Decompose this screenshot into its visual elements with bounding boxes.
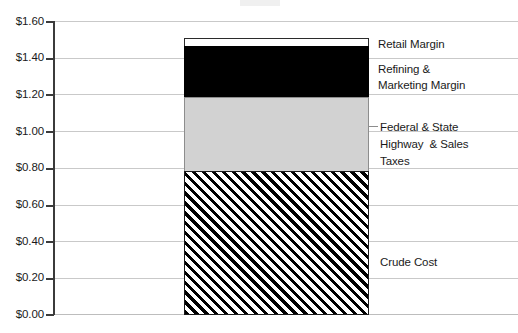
legend-label-taxes-line1: Federal & State [380,120,458,134]
y-tick-label-0-80: $0.80 [0,162,44,174]
stacked-bar-chart: $1.60 $1.40 $1.20 $1.00 $0.80 $0.60 $0.4… [0,0,518,333]
y-tick-mark-0-80 [46,168,54,170]
y-tick-mark-0-20 [46,278,54,280]
y-tick-mark-1-20 [46,94,54,96]
y-tick-label-1-00: $1.00 [0,126,44,138]
y-tick-mark-0-60 [46,205,54,207]
bar-segment-federal-state-taxes[interactable] [184,97,369,172]
leader-line-taxes [369,126,378,127]
gridline-1-60 [53,21,518,22]
y-tick-label-0-40: $0.40 [0,236,44,248]
y-tick-label-1-40: $1.40 [0,52,44,64]
bar-segment-refining-marketing-margin[interactable] [184,46,369,98]
legend-label-taxes-line3: Taxes [380,154,410,168]
y-tick-label-0-20: $0.20 [0,272,44,284]
legend-label-taxes-line2: Highway & Sales [380,137,469,151]
y-tick-mark-0-40 [46,241,54,243]
y-tick-label-1-60: $1.60 [0,16,44,28]
bar-segment-crude-cost[interactable] [184,171,369,315]
y-tick-mark-0-00 [46,314,54,316]
legend-label-retail-margin: Retail Margin [378,37,444,51]
legend-label-crude-cost: Crude Cost [380,255,437,269]
y-tick-label-1-20: $1.20 [0,89,44,101]
y-tick-label-0-60: $0.60 [0,199,44,211]
y-tick-mark-1-00 [46,131,54,133]
legend-label-refining-marketing-line2: Marketing Margin [378,78,465,92]
legend-label-refining-marketing-line1: Refining & [378,62,430,76]
y-tick-mark-1-40 [46,58,54,60]
title-remnant [240,0,280,6]
y-tick-mark-1-60 [46,21,54,23]
y-tick-label-0-00: $0.00 [0,309,44,321]
